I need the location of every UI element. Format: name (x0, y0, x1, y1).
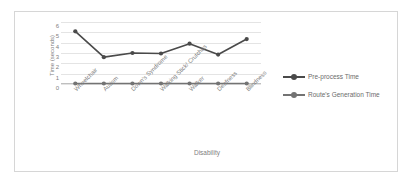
chart-container: Time (seconds) 6543210 WheelchairAutismD… (14, 11, 398, 172)
legend-marker-icon (283, 72, 305, 81)
legend-item[interactable]: Route's Generation Time (283, 90, 395, 99)
data-point (187, 42, 191, 46)
legend-item[interactable]: Pre-process Time (283, 72, 395, 81)
y-axis-tick-label: 3 (45, 54, 59, 60)
data-point (245, 37, 249, 41)
x-axis-title: Disability (15, 149, 399, 156)
data-point (130, 51, 134, 55)
y-axis-tick-label: 4 (45, 44, 59, 50)
y-axis-tick-label: 2 (45, 64, 59, 70)
legend-marker-icon (283, 90, 305, 99)
y-axis-ticks: 6543210 (45, 16, 59, 90)
data-point (73, 29, 77, 33)
chart-legend: Pre-process TimeRoute's Generation Time (283, 72, 395, 108)
x-axis-ticks: WheelchairAutismDown's SyndromeWalking S… (61, 86, 271, 142)
legend-label: Pre-process Time (308, 73, 359, 81)
y-axis-tick-label: 5 (45, 33, 59, 39)
y-axis-tick-label: 6 (45, 23, 59, 29)
data-point (102, 55, 106, 59)
y-axis-title-wrapper: Time (seconds) (31, 26, 45, 82)
legend-label: Route's Generation Time (308, 91, 380, 99)
y-axis-tick-label: 1 (45, 75, 59, 81)
y-axis-tick-label: 0 (45, 85, 59, 91)
data-point (216, 52, 220, 56)
